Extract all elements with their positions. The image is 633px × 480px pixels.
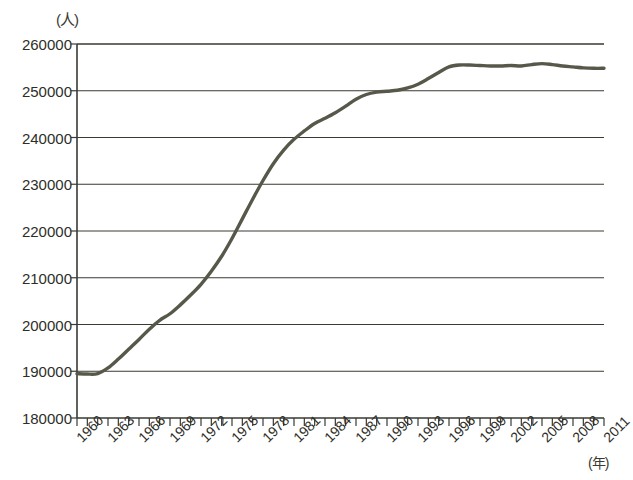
x-axis-tick-label: 1990 — [383, 412, 416, 445]
x-axis-tick-label: 1999 — [476, 412, 509, 445]
x-axis-tick-label: 1975 — [228, 412, 261, 445]
x-axis-tick-label: 1966 — [135, 412, 168, 445]
x-axis-tick-label: 1960 — [73, 412, 106, 445]
x-axis-tick-label: 1987 — [352, 412, 385, 445]
x-axis-tick-label: 1969 — [166, 412, 199, 445]
x-axis-tick-label: 2005 — [538, 412, 571, 445]
x-axis-tick-label: 1978 — [259, 412, 292, 445]
x-axis-tick-label: 1963 — [104, 412, 137, 445]
x-axis-tick-label: 2011 — [600, 413, 633, 446]
x-axis-tick-label: 2008 — [569, 412, 602, 445]
x-axis-tick-label: 1996 — [445, 412, 478, 445]
x-axis-tick-label: 2002 — [507, 412, 540, 445]
x-axis-tick-label: 1993 — [414, 412, 447, 445]
x-axis-tick-label: 1981 — [290, 412, 323, 445]
x-axis-tick-label: 1984 — [321, 412, 354, 445]
x-axis-tick-label: 1972 — [197, 412, 230, 445]
